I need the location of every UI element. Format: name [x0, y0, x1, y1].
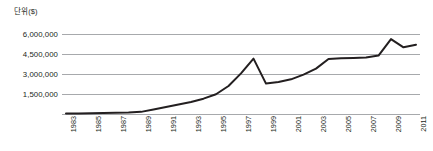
line-chart-figure: 단위($) 6,000,0004,500,0003,000,0001,500,0…: [0, 0, 433, 151]
x-tick-label-2009: 2009: [394, 116, 403, 132]
x-tick-label-1999: 1999: [269, 116, 278, 132]
x-tick-label-1987: 1987: [119, 116, 128, 132]
x-tick-label-1985: 1985: [94, 116, 103, 132]
x-tick-label-1991: 1991: [169, 116, 178, 132]
y-tick-label-0: 6,000,000: [23, 30, 58, 39]
x-tick-label-2011: 2011: [419, 116, 428, 132]
y-tick-label-1: 4,500,000: [23, 50, 58, 59]
y-tick-label-2: 3,000,000: [23, 70, 58, 79]
x-tick-label-2001: 2001: [294, 116, 303, 132]
x-tick-label-1993: 1993: [194, 116, 203, 132]
x-axis-tick-label-group: 1983198519871989199119931995199719992001…: [62, 116, 420, 151]
y-axis-tick-label-group: 6,000,0004,500,0003,000,0001,500,000: [0, 0, 58, 151]
x-tick-label-2007: 2007: [369, 116, 378, 132]
x-tick-label-2005: 2005: [344, 116, 353, 132]
x-tick-label-2003: 2003: [319, 116, 328, 132]
x-tick-label-1989: 1989: [144, 116, 153, 132]
series-line-value: [66, 39, 416, 114]
x-tick-label-1995: 1995: [219, 116, 228, 132]
x-tick-label-1997: 1997: [244, 116, 253, 132]
y-tick-label-3: 1,500,000: [23, 90, 58, 99]
x-tick-label-1983: 1983: [69, 116, 78, 132]
